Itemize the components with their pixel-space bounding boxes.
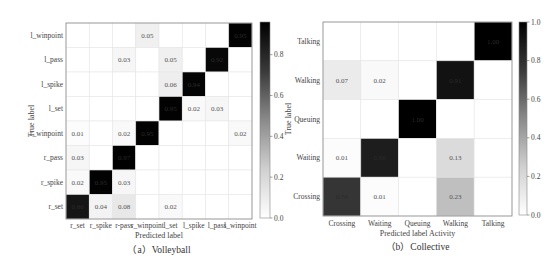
subfigure-caption: （b）Collective <box>386 241 450 252</box>
x-tick-label: Talking <box>482 219 505 228</box>
cell-value-label: 0.13 <box>449 154 462 162</box>
heatmap-cell <box>399 138 437 177</box>
x-axis-label: Predicted label <box>135 231 184 240</box>
x-tick-label: Queuing <box>405 219 431 228</box>
colorbar-tick-label: 0.2 <box>531 172 541 181</box>
x-tick-label: Crossing <box>329 219 356 228</box>
heatmap-cell <box>206 23 229 48</box>
y-tick-label: l_spike <box>41 80 63 89</box>
y-tick-label: Crossing <box>293 192 320 201</box>
heatmap-cell <box>182 146 205 171</box>
heatmap-cell <box>436 100 474 139</box>
heatmap-cell <box>89 72 112 97</box>
colorbar-tick-label: 0.6 <box>531 95 541 104</box>
cell-value-label: 0.07 <box>336 77 349 85</box>
volleyball-confusion-matrix: 0.050.950.030.050.920.060.940.950.020.03… <box>27 22 284 255</box>
heatmap-cell <box>113 97 136 122</box>
x-tick-label: l_spike <box>183 221 205 230</box>
heatmap-cell <box>159 146 182 171</box>
heatmap-cell <box>206 72 229 97</box>
heatmap-cell <box>113 23 136 48</box>
heatmap-cell <box>361 22 399 61</box>
cell-value-label: 0.86 <box>72 203 85 211</box>
cell-value-label: 0.06 <box>165 81 178 89</box>
x-tick-label: r_set <box>70 221 85 230</box>
cell-value-label: 0.02 <box>374 77 387 85</box>
heatmap-cell <box>136 48 159 73</box>
heatmap-cell <box>474 100 512 139</box>
heatmap-cell <box>182 195 205 220</box>
heatmap-cell <box>89 97 112 122</box>
heatmap-cell <box>66 23 89 48</box>
heatmap-cell <box>136 72 159 97</box>
cell-value-label: 0.95 <box>165 105 178 113</box>
cell-value-label: 0.76 <box>336 193 349 201</box>
heatmap-cell <box>89 23 112 48</box>
cell-value-label: 0.02 <box>72 179 85 187</box>
heatmap-cell <box>474 138 512 177</box>
y-tick-label: r_pass <box>44 153 63 162</box>
heatmap-cell <box>206 121 229 146</box>
heatmap-cell <box>182 121 205 146</box>
heatmap-cell <box>399 61 437 100</box>
heatmap-cell <box>474 61 512 100</box>
cell-value-label: 0.02 <box>118 130 131 138</box>
x-tick-label: Waiting <box>368 219 392 228</box>
heatmap-cell <box>182 170 205 195</box>
heatmap-cell <box>159 170 182 195</box>
colorbar-tick-label: 0.6 <box>274 91 284 100</box>
y-tick-label: Queuing <box>294 115 320 124</box>
cell-value-label: 0.02 <box>188 105 201 113</box>
heatmap-cell <box>89 48 112 73</box>
colorbar <box>519 22 527 215</box>
heatmap-cell <box>182 48 205 73</box>
cell-value-label: 0.91 <box>449 77 462 85</box>
colorbar-tick-label: 0.8 <box>531 56 541 65</box>
cell-value-label: 0.94 <box>188 81 201 89</box>
heatmap-cell <box>229 72 252 97</box>
heatmap-cell <box>399 22 437 61</box>
y-tick-label: l_set <box>49 104 64 113</box>
x-axis-label: Predicted label Activity <box>380 229 456 238</box>
subfigure-caption: （a）Volleyball <box>127 244 190 255</box>
cell-value-label: 0.08 <box>118 203 131 211</box>
heatmap-cell <box>89 121 112 146</box>
x-tick-label: Walking <box>443 219 468 228</box>
heatmap-cell <box>159 23 182 48</box>
heatmap-cell <box>136 97 159 122</box>
heatmap-cell <box>206 195 229 220</box>
heatmap-cell <box>399 177 437 216</box>
heatmap-cell <box>206 170 229 195</box>
cell-value-label: 0.03 <box>72 154 85 162</box>
cell-value-label: 0.97 <box>118 154 131 162</box>
heatmap-cell <box>136 170 159 195</box>
heatmap-cell <box>474 177 512 216</box>
cell-value-label: 0.02 <box>165 203 178 211</box>
cell-value-label: 0.01 <box>374 193 387 201</box>
heatmap-cell <box>66 48 89 73</box>
y-tick-label: l_winpoint <box>30 31 63 40</box>
heatmap-cell <box>436 22 474 61</box>
cell-value-label: 0.05 <box>165 56 178 64</box>
heatmap-cell <box>229 48 252 73</box>
heatmap-cell <box>182 23 205 48</box>
cell-value-label: 1.00 <box>411 116 424 124</box>
heatmap-cell <box>323 22 361 61</box>
heatmap-cell <box>361 100 399 139</box>
cell-value-label: 0.95 <box>141 130 154 138</box>
colorbar-tick-label: 0.4 <box>274 132 284 141</box>
y-tick-label: Walking <box>295 76 320 85</box>
cell-value-label: 0.95 <box>95 179 108 187</box>
cell-value-label: 0.04 <box>95 203 108 211</box>
cell-value-label: 0.92 <box>211 56 224 64</box>
colorbar-tick-label: 0.8 <box>274 50 284 59</box>
colorbar-tick-label: 0.0 <box>531 211 541 220</box>
y-tick-label: Talking <box>297 37 320 46</box>
heatmap-cell <box>206 146 229 171</box>
y-tick-label: l_pass <box>44 55 63 64</box>
colorbar-tick-label: 0.2 <box>274 173 284 182</box>
colorbar-tick-label: 0.4 <box>531 133 541 142</box>
cell-value-label: 0.02 <box>234 130 247 138</box>
heatmap-cell <box>159 121 182 146</box>
heatmap-cell <box>229 170 252 195</box>
